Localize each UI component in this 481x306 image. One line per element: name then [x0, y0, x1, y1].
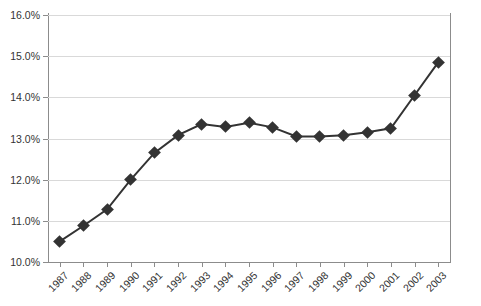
x-tick-mark [202, 262, 203, 267]
x-tick-mark [320, 262, 321, 267]
x-tick-mark [249, 262, 250, 267]
x-tick-label: 1998 [299, 269, 330, 300]
x-tick-mark [178, 262, 179, 267]
x-tick-label: 1995 [228, 269, 259, 300]
x-tick-mark [131, 262, 132, 267]
x-tick-mark [225, 262, 226, 267]
x-tick-mark [296, 262, 297, 267]
x-axis: 1987198819891990199119921993199419951996… [0, 0, 481, 306]
x-tick-label: 2001 [370, 269, 401, 300]
x-tick-mark [83, 262, 84, 267]
x-tick-label: 1989 [86, 269, 117, 300]
x-tick-mark [60, 262, 61, 267]
x-tick-mark [107, 262, 108, 267]
x-tick-mark [273, 262, 274, 267]
x-tick-label: 1992 [157, 269, 188, 300]
x-tick-mark [391, 262, 392, 267]
x-tick-mark [415, 262, 416, 267]
x-tick-mark [438, 262, 439, 267]
x-tick-mark [154, 262, 155, 267]
x-tick-mark [344, 262, 345, 267]
line-chart: 10.0%11.0%12.0%13.0%14.0%15.0%16.0% 1987… [0, 0, 481, 306]
x-tick-mark [367, 262, 368, 267]
